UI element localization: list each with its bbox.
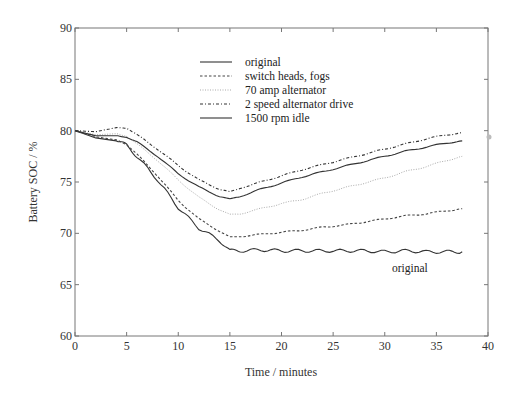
- legend-label-70amp: 70 amp alternator: [245, 84, 326, 97]
- series-switch-heads-fogs: [75, 131, 462, 237]
- y-tick-label: 90: [60, 21, 72, 35]
- x-tick-label: 5: [124, 339, 130, 353]
- legend-label-2speed: 2 speed alternator drive: [245, 98, 353, 111]
- legend-label-1500rpm: 1500 rpm idle: [245, 112, 310, 125]
- x-tick-label: 15: [224, 339, 236, 353]
- x-axis-label: Time / minutes: [245, 365, 318, 379]
- annotation-original: original: [392, 262, 428, 275]
- series-layer: [75, 127, 462, 253]
- y-tick-label: 75: [60, 175, 72, 189]
- x-tick-label: 20: [276, 339, 288, 353]
- x-tick-label: 40: [482, 339, 494, 353]
- x-tick-label: 0: [72, 339, 78, 353]
- legend-label-switch-heads: switch heads, fogs: [245, 70, 330, 83]
- x-tick-label: 35: [430, 339, 442, 353]
- y-tick-label: 80: [60, 124, 72, 138]
- y-tick-label: 65: [60, 278, 72, 292]
- x-tick-label: 30: [379, 339, 391, 353]
- stray-dot: [487, 135, 492, 140]
- series-2-speed-alternator-drive: [75, 127, 462, 191]
- y-tick-label: 85: [60, 72, 72, 86]
- y-axis-label: Battery SOC / %: [26, 142, 40, 223]
- x-tick-label: 25: [327, 339, 339, 353]
- legend-label-original: original: [245, 56, 281, 69]
- series-original: [75, 131, 462, 254]
- x-tick-label: 10: [172, 339, 184, 353]
- chart: 051015202530354060657075808590 original …: [0, 0, 519, 396]
- series-70-amp-alternator: [75, 131, 462, 215]
- y-tick-label: 60: [60, 329, 72, 343]
- legend: original switch heads, fogs 70 amp alter…: [200, 56, 353, 125]
- y-tick-label: 70: [60, 226, 72, 240]
